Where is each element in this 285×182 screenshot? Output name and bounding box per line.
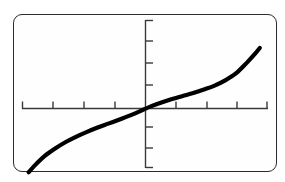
y-axis-group — [146, 20, 154, 168]
screenshot-root — [0, 0, 285, 182]
function-curve — [29, 48, 260, 172]
graph-plot — [0, 0, 285, 182]
y-axis-ticks — [146, 21, 154, 168]
